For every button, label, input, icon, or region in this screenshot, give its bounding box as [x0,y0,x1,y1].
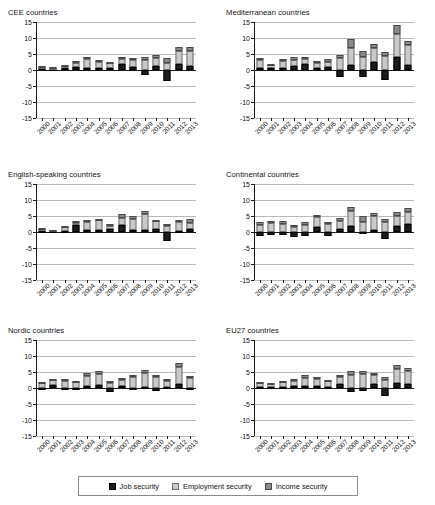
stacked-bar[interactable] [405,340,412,436]
bar-segment-job [290,66,297,70]
stacked-bar[interactable] [95,340,102,436]
bar-slot [36,22,47,118]
stacked-bar[interactable] [393,184,400,280]
stacked-bar[interactable] [141,22,148,118]
stacked-bar[interactable] [130,340,137,436]
stacked-bar[interactable] [382,22,389,118]
stacked-bar[interactable] [336,22,343,118]
stacked-bar[interactable] [313,340,320,436]
stacked-bar[interactable] [313,184,320,280]
bar-segment-inc [405,41,412,45]
bar-series-group [36,340,196,436]
stacked-bar[interactable] [313,22,320,118]
stacked-bar[interactable] [256,340,263,436]
stacked-bar[interactable] [152,22,159,118]
y-axis-tick-label: 10 [242,197,250,204]
stacked-bar[interactable] [290,22,297,118]
stacked-bar[interactable] [405,22,412,118]
bar-segment-inc [359,371,366,374]
stacked-bar[interactable] [348,340,355,436]
stacked-bar[interactable] [118,22,125,118]
stacked-bar[interactable] [302,22,309,118]
stacked-bar[interactable] [187,184,194,280]
stacked-bar[interactable] [175,340,182,436]
stacked-bar[interactable] [336,184,343,280]
stacked-bar[interactable] [302,184,309,280]
stacked-bar[interactable] [141,340,148,436]
stacked-bar[interactable] [325,340,332,436]
stacked-bar[interactable] [268,340,275,436]
stacked-bar[interactable] [38,340,45,436]
stacked-bar[interactable] [72,340,79,436]
legend-item-inc: Income security [265,482,328,491]
stacked-bar[interactable] [382,184,389,280]
stacked-bar[interactable] [164,184,171,280]
stacked-bar[interactable] [370,22,377,118]
stacked-bar[interactable] [72,184,79,280]
stacked-bar[interactable] [325,22,332,118]
stacked-bar[interactable] [107,22,114,118]
stacked-bar[interactable] [382,340,389,436]
stacked-bar[interactable] [130,184,137,280]
stacked-bar[interactable] [164,340,171,436]
stacked-bar[interactable] [84,22,91,118]
stacked-bar[interactable] [348,184,355,280]
stacked-bar[interactable] [50,22,57,118]
stacked-bar[interactable] [118,184,125,280]
bar-segment-emp [393,216,400,226]
stacked-bar[interactable] [152,340,159,436]
stacked-bar[interactable] [72,22,79,118]
stacked-bar[interactable] [279,184,286,280]
stacked-bar[interactable] [370,340,377,436]
bar-slot [368,22,379,118]
stacked-bar[interactable] [107,340,114,436]
stacked-bar[interactable] [279,340,286,436]
stacked-bar[interactable] [256,22,263,118]
chart-panel: Continental countries151050-5-10-1520002… [218,170,423,322]
stacked-bar[interactable] [359,340,366,436]
stacked-bar[interactable] [50,184,57,280]
stacked-bar[interactable] [187,22,194,118]
stacked-bar[interactable] [118,340,125,436]
stacked-bar[interactable] [302,340,309,436]
stacked-bar[interactable] [279,22,286,118]
stacked-bar[interactable] [152,184,159,280]
bar-segment-emp [118,218,125,225]
bar-segment-emp [359,57,366,70]
stacked-bar[interactable] [268,184,275,280]
stacked-bar[interactable] [38,184,45,280]
stacked-bar[interactable] [393,22,400,118]
stacked-bar[interactable] [84,340,91,436]
bar-slot [127,340,138,436]
stacked-bar[interactable] [84,184,91,280]
stacked-bar[interactable] [107,184,114,280]
bar-slot [93,184,104,280]
stacked-bar[interactable] [95,184,102,280]
stacked-bar[interactable] [38,22,45,118]
stacked-bar[interactable] [348,22,355,118]
stacked-bar[interactable] [164,22,171,118]
bar-slot [93,22,104,118]
stacked-bar[interactable] [256,184,263,280]
stacked-bar[interactable] [325,184,332,280]
stacked-bar[interactable] [61,184,68,280]
stacked-bar[interactable] [95,22,102,118]
stacked-bar[interactable] [130,22,137,118]
stacked-bar[interactable] [61,22,68,118]
stacked-bar[interactable] [50,340,57,436]
stacked-bar[interactable] [290,340,297,436]
stacked-bar[interactable] [187,340,194,436]
stacked-bar[interactable] [290,184,297,280]
stacked-bar[interactable] [268,22,275,118]
stacked-bar[interactable] [175,22,182,118]
stacked-bar[interactable] [336,340,343,436]
stacked-bar[interactable] [405,184,412,280]
stacked-bar[interactable] [359,22,366,118]
stacked-bar[interactable] [359,184,366,280]
bar-slot [402,340,413,436]
stacked-bar[interactable] [141,184,148,280]
stacked-bar[interactable] [370,184,377,280]
stacked-bar[interactable] [393,340,400,436]
stacked-bar[interactable] [61,340,68,436]
stacked-bar[interactable] [175,184,182,280]
